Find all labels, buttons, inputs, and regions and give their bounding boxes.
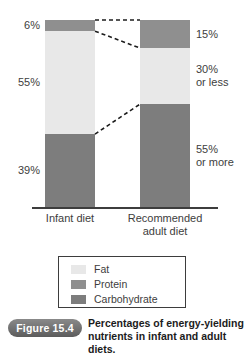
x-axis-line: [32, 207, 218, 209]
bar-segment-infant-fat: [45, 31, 95, 134]
bar-segment-adult-fat: [140, 48, 190, 104]
category-label-infant-diet: Infant diet: [34, 212, 106, 225]
legend-swatch-carbohydrate-icon: [71, 295, 86, 304]
category-label-adult-line1: Recommended: [122, 212, 208, 225]
dashed-line-fat-carb: [95, 104, 140, 134]
figure-number-badge: Figure 15.4: [8, 319, 82, 337]
legend-label-fat: Fat: [94, 264, 109, 275]
category-label-adult-diet: Recommended adult diet: [122, 212, 208, 238]
label-infant-fat: 55%: [0, 76, 40, 89]
figure-caption-line2: nutrients in infant and adult diets.: [88, 330, 248, 353]
bar-recommended-adult-diet: [140, 20, 190, 207]
figure-15-4: 6% 55% 39% 15% 30% or less 55% or more I…: [0, 0, 251, 353]
label-adult-protein: 15%: [196, 28, 218, 41]
legend-item-protein: Protein: [71, 277, 185, 291]
legend-label-carbohydrate: Carbohydrate: [94, 294, 158, 305]
label-adult-fat-line2: or less: [196, 76, 228, 89]
bar-segment-adult-protein: [140, 20, 190, 48]
bar-segment-infant-protein: [45, 20, 95, 31]
category-label-infant-line1: Infant diet: [34, 212, 106, 225]
label-infant-carbohydrate: 39%: [0, 164, 40, 177]
label-infant-protein: 6%: [0, 19, 40, 32]
label-adult-fat: 30% or less: [196, 63, 228, 89]
label-adult-carb-line1: 55%: [196, 143, 234, 156]
bar-segment-adult-carbohydrate: [140, 104, 190, 207]
legend-label-protein: Protein: [94, 279, 127, 290]
label-adult-carbohydrate: 55% or more: [196, 143, 234, 169]
figure-caption-text: Percentages of energy-yielding nutrients…: [88, 317, 248, 353]
bar-segment-infant-carbohydrate: [45, 134, 95, 207]
label-adult-fat-line1: 30%: [196, 63, 228, 76]
legend-swatch-fat-icon: [71, 265, 86, 274]
category-label-adult-line2: adult diet: [122, 225, 208, 238]
legend-item-fat: Fat: [71, 262, 185, 276]
chart-legend: Fat Protein Carbohydrate: [58, 256, 186, 308]
bar-infant-diet: [45, 20, 95, 207]
figure-caption-line1: Percentages of energy-yielding: [88, 317, 248, 330]
legend-swatch-protein-icon: [71, 280, 86, 289]
figure-caption: Figure 15.4 Percentages of energy-yieldi…: [0, 316, 251, 353]
label-adult-carb-line2: or more: [196, 156, 234, 169]
legend-item-carbohydrate: Carbohydrate: [71, 292, 185, 306]
stacked-bar-chart: 6% 55% 39% 15% 30% or less 55% or more I…: [0, 0, 251, 215]
dashed-line-protein-fat: [95, 31, 140, 48]
